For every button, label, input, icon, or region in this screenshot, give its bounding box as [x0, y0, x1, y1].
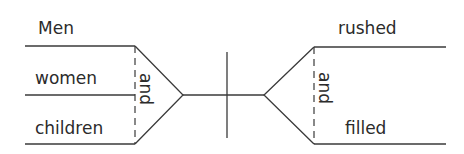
- subject-word-2: women: [35, 68, 97, 88]
- sentence-diagram: Men women children and rushed filled and: [0, 0, 464, 154]
- predicate-word-2: filled: [345, 118, 386, 138]
- predicate-conjunction: and: [315, 72, 335, 104]
- subject-conjunction: and: [136, 73, 156, 105]
- predicate-diverge-lines: [264, 47, 314, 144]
- predicate-word-1: rushed: [338, 18, 397, 38]
- diagram-canvas: Men women children and rushed filled and: [0, 0, 464, 154]
- subject-word-3: children: [35, 118, 103, 138]
- subject-word-1: Men: [38, 18, 74, 38]
